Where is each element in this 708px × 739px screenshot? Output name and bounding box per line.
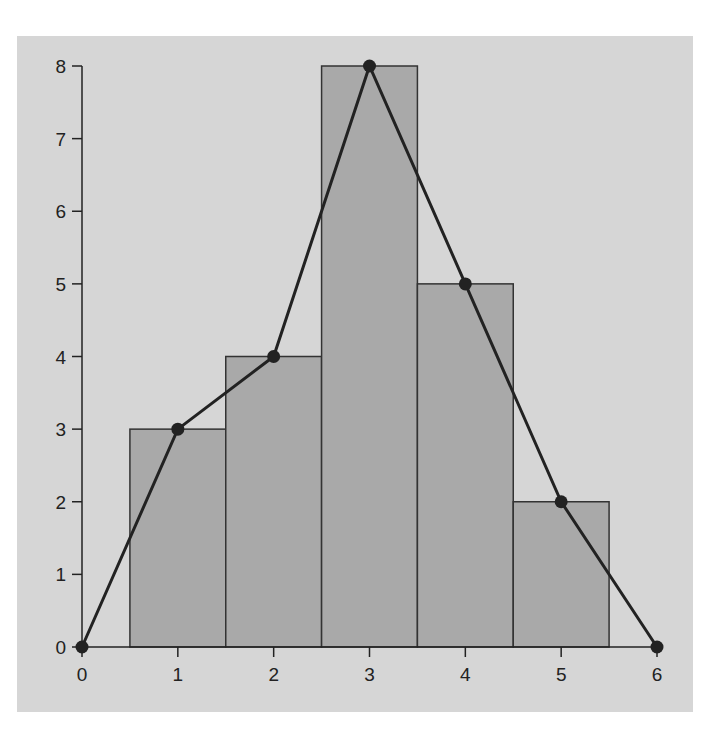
histogram-chart: 0123456780123456 xyxy=(0,0,708,739)
x-tick-label: 3 xyxy=(364,664,375,685)
y-tick-label: 7 xyxy=(55,129,66,150)
histogram-bar xyxy=(130,429,226,647)
x-tick-label: 1 xyxy=(173,664,184,685)
histogram-bar xyxy=(322,66,418,647)
chart-panel: 0123456780123456 xyxy=(17,36,693,712)
data-point-marker xyxy=(76,641,89,654)
histogram-bars xyxy=(130,66,609,647)
y-tick-label: 5 xyxy=(55,274,66,295)
y-tick-label: 1 xyxy=(55,564,66,585)
data-point-marker xyxy=(267,350,280,363)
x-tick-label: 5 xyxy=(556,664,567,685)
x-tick-label: 2 xyxy=(268,664,279,685)
data-point-marker xyxy=(171,423,184,436)
y-tick-label: 0 xyxy=(55,637,66,658)
y-tick-label: 6 xyxy=(55,201,66,222)
data-point-marker xyxy=(555,495,568,508)
y-tick-label: 3 xyxy=(55,419,66,440)
histogram-bar xyxy=(417,284,513,647)
data-point-marker xyxy=(459,277,472,290)
histogram-bar xyxy=(226,357,322,648)
data-point-marker xyxy=(651,641,664,654)
y-tick-label: 4 xyxy=(55,347,66,368)
data-point-marker xyxy=(363,60,376,73)
x-tick-label: 4 xyxy=(460,664,471,685)
y-tick-label: 8 xyxy=(55,56,66,77)
x-tick-label: 0 xyxy=(77,664,88,685)
x-tick-label: 6 xyxy=(652,664,663,685)
histogram-bar xyxy=(513,502,609,647)
y-tick-label: 2 xyxy=(55,492,66,513)
